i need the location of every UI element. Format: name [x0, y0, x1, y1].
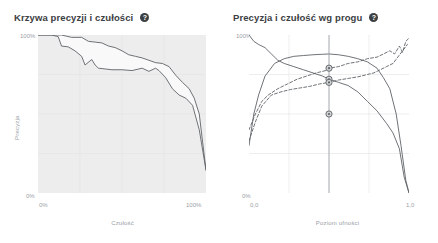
x-axis-tick-end-right: 1,0	[406, 202, 414, 208]
panel-header-left: Krzywa precyzji i czułości ?	[14, 12, 149, 23]
help-icon[interactable]: ?	[369, 13, 378, 22]
precision-recall-plot	[38, 35, 206, 193]
x-axis-label-right: Poziom ufności	[255, 220, 420, 226]
page-title-secondary: Precyzja i czułość wg progu	[233, 12, 362, 23]
x-axis-tick-start-left: 0%	[39, 202, 48, 208]
help-icon[interactable]: ?	[140, 13, 149, 22]
y-axis-tick-top-left: 100%	[20, 33, 35, 39]
threshold-plot	[249, 35, 409, 193]
charts-page: Krzywa precyzji i czułości ? 100% 0% 0% …	[0, 0, 438, 243]
page-title: Krzywa precyzji i czułości	[14, 12, 133, 23]
x-axis-tick-end-left: 100%	[186, 202, 201, 208]
x-axis-label-left: Czułość	[40, 220, 205, 226]
panel-header-right: Precyzja i czułość wg progu ?	[233, 12, 378, 23]
y-axis-label-left: Precyzja	[14, 115, 20, 140]
panel-precision-recall-curve: Krzywa precyzji i czułości ? 100% 0% 0% …	[0, 0, 219, 243]
y-axis-tick-bottom-left: 0%	[26, 193, 35, 199]
y-axis-tick-bottom-right: 0%	[242, 193, 251, 199]
x-axis-tick-start-right: 0,0	[250, 202, 258, 208]
